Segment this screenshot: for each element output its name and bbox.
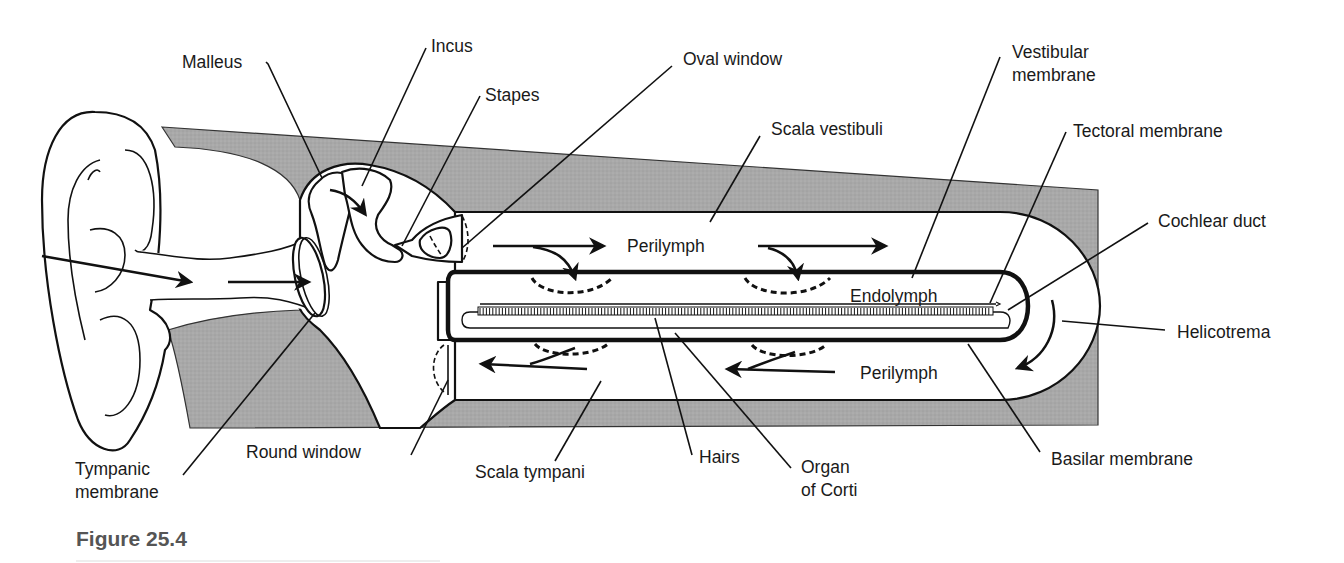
label-tympanic-membrane-line2: membrane xyxy=(75,482,159,502)
label-vestibular-membrane-line1: Vestibular xyxy=(1012,42,1089,62)
label-perilymph-upper: Perilymph xyxy=(627,236,705,256)
label-basilar-membrane: Basilar membrane xyxy=(1051,449,1193,469)
label-stapes: Stapes xyxy=(485,85,540,105)
figure-caption: Figure 25.4 xyxy=(76,527,187,550)
label-oval-window: Oval window xyxy=(683,49,783,69)
label-scala-vestibuli: Scala vestibuli xyxy=(771,119,883,139)
label-tectoral-membrane: Tectoral membrane xyxy=(1073,121,1223,141)
label-organ-of-corti-line1: Organ xyxy=(801,457,850,477)
label-round-window: Round window xyxy=(246,442,361,462)
label-hairs: Hairs xyxy=(699,447,740,467)
label-endolymph: Endolymph xyxy=(850,286,938,306)
label-incus: Incus xyxy=(431,36,473,56)
label-scala-tympani: Scala tympani xyxy=(475,462,585,482)
label-vestibular-membrane-line2: membrane xyxy=(1012,65,1096,85)
label-cochlear-duct: Cochlear duct xyxy=(1158,211,1266,231)
label-malleus: Malleus xyxy=(182,52,243,72)
ear-cochlea-diagram: Malleus Incus Stapes Oval window Vestibu… xyxy=(0,0,1344,563)
label-helicotrema: Helicotrema xyxy=(1177,322,1271,342)
label-perilymph-lower: Perilymph xyxy=(860,363,938,383)
ear-canal xyxy=(140,235,335,319)
label-organ-of-corti-line2: of Corti xyxy=(801,480,857,500)
cochlear-duct xyxy=(438,272,1028,340)
label-tympanic-membrane-line1: Tympanic xyxy=(75,459,150,479)
diagram-canvas: Malleus Incus Stapes Oval window Vestibu… xyxy=(0,0,1344,563)
